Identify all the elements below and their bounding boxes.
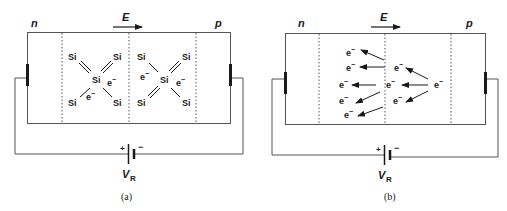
battery-subscript: R: [386, 175, 392, 184]
caption-a: (a): [121, 191, 132, 203]
battery-plus: +: [376, 145, 381, 154]
svg-text:e−: e−: [393, 94, 402, 106]
wire-left: [15, 78, 128, 154]
si-lattice-left: Si Si Si Si Si e− e−: [68, 52, 122, 108]
svg-text:Si: Si: [137, 52, 146, 62]
svg-text:e−: e−: [107, 76, 116, 88]
svg-text:e−: e−: [344, 108, 353, 120]
svg-text:e−: e−: [339, 78, 348, 90]
field-label: E: [380, 11, 388, 23]
n-region-label: n: [298, 17, 305, 29]
svg-text:e−: e−: [386, 78, 395, 90]
electrons: e− e− e− e− e− e− e− e− e−: [339, 46, 443, 120]
contact-n: [26, 64, 29, 86]
n-region-label: n: [31, 17, 38, 29]
svg-text:Si: Si: [182, 52, 191, 62]
contact-p: [484, 72, 487, 94]
svg-text:Si: Si: [113, 98, 122, 108]
battery-plus: +: [120, 144, 125, 153]
svg-text:Si: Si: [68, 52, 77, 62]
svg-text:e−: e−: [140, 70, 149, 82]
svg-text:e−: e−: [176, 76, 185, 88]
si-lattice-right: Si Si Si Si Si e− e−: [137, 52, 191, 108]
caption-b: (b): [384, 191, 396, 203]
junction-box: [286, 34, 486, 125]
svg-text:e−: e−: [339, 94, 348, 106]
battery-minus: −: [394, 143, 399, 153]
diagram-canvas: E n p + − V R (a) Si Si Si Si Si: [0, 0, 507, 211]
panel-a: E n p + − V R (a) Si Si Si Si Si: [15, 11, 243, 203]
p-region-label: p: [465, 17, 473, 29]
svg-text:Si: Si: [182, 98, 191, 108]
contact-p: [229, 64, 232, 86]
svg-text:e−: e−: [86, 90, 95, 102]
battery-subscript: R: [130, 174, 136, 183]
wire-right: [390, 79, 498, 157]
junction-box: [28, 33, 231, 124]
svg-text:Si: Si: [113, 52, 122, 62]
wire-left: [272, 79, 384, 155]
p-region-label: p: [214, 17, 222, 29]
svg-text:e−: e−: [434, 78, 443, 90]
svg-text:e−: e−: [346, 61, 355, 73]
svg-text:Si: Si: [160, 75, 169, 85]
field-label: E: [122, 11, 130, 23]
svg-text:Si: Si: [92, 75, 101, 85]
svg-text:Si: Si: [137, 98, 146, 108]
svg-text:Si: Si: [68, 98, 77, 108]
battery-minus: −: [138, 142, 143, 152]
svg-text:e−: e−: [346, 46, 355, 58]
svg-text:e−: e−: [394, 61, 403, 73]
panel-b: E n p + − V R (b) e− e− e− e− e− e− e− e…: [272, 11, 498, 203]
wire-right: [134, 78, 243, 154]
contact-n: [284, 72, 287, 94]
